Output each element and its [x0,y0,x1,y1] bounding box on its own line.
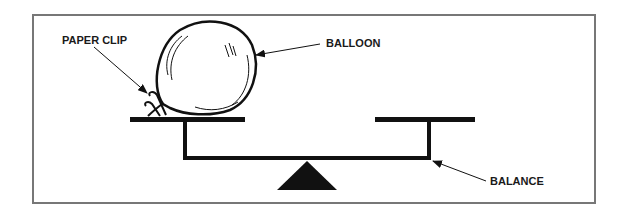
balance [130,117,475,190]
balloon-label: BALLOON [326,37,380,49]
label-balloon: BALLOON [256,37,380,55]
left-post [183,120,187,160]
fulcrum-triangle [277,161,337,190]
label-balance: BALANCE [433,161,544,187]
balloon [157,22,256,115]
label-paper-clip: PAPER CLIP [62,34,147,93]
right-post [427,120,431,160]
beam [183,156,431,160]
paper-clip-label: PAPER CLIP [62,34,127,46]
balance-label: BALANCE [490,175,544,187]
right-plate [375,117,475,122]
balloon-balance-diagram: PAPER CLIP BALLOON BALANCE [0,0,623,215]
left-plate [130,117,245,122]
